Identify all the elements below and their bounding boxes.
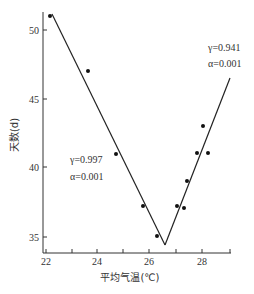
y-tick-label: 50 bbox=[29, 25, 39, 36]
left-significance-label: α=0.001 bbox=[70, 171, 103, 182]
chart: 35 40 45 50 22 24 26 28 平均气温(℃) 天数(d) γ=… bbox=[0, 0, 254, 294]
y-tick-label: 35 bbox=[29, 232, 39, 243]
left-fit-line bbox=[52, 14, 165, 245]
right-correlation-label: γ=0.941 bbox=[207, 42, 241, 53]
x-ticks bbox=[46, 249, 230, 253]
right-significance-label: α=0.001 bbox=[208, 58, 241, 69]
x-tick-label: 24 bbox=[92, 256, 102, 267]
y-ticks bbox=[43, 30, 47, 237]
x-tick-label: 22 bbox=[41, 256, 51, 267]
x-tick-label: 26 bbox=[144, 256, 154, 267]
x-axis-title: 平均气温(℃) bbox=[100, 271, 159, 283]
left-correlation-label: γ=0.997 bbox=[69, 154, 103, 165]
data-points bbox=[48, 14, 210, 238]
x-tick-label: 28 bbox=[197, 256, 207, 267]
y-tick-label: 40 bbox=[29, 162, 39, 173]
y-axis-title: 天数(d) bbox=[8, 118, 20, 152]
y-tick-label: 45 bbox=[29, 94, 39, 105]
right-fit-line bbox=[165, 78, 230, 245]
